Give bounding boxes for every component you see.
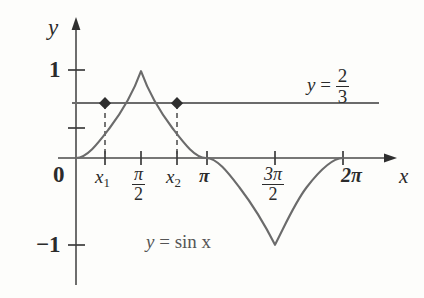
pi-over-2-fraction: π 2 bbox=[132, 165, 145, 203]
line-equation-equals: = bbox=[320, 74, 331, 95]
x1-subscript: 1 bbox=[103, 175, 109, 190]
curve-equation-equals: = bbox=[159, 231, 170, 252]
x-tick-label-3pi-over-2: 3π 2 bbox=[262, 165, 284, 203]
two-thirds-numerator: 2 bbox=[336, 66, 350, 86]
sine-graph-figure: y x 0 1 −1 x1 π 2 x2 π 3π 2 2π y = 2 3 bbox=[0, 0, 424, 298]
x-tick-label-pi: π bbox=[199, 166, 209, 185]
three-pi-over-2-numerator: 3π bbox=[262, 165, 284, 184]
x2-subscript: 2 bbox=[174, 175, 180, 190]
x-axis bbox=[58, 153, 397, 162]
two-thirds-fraction: 2 3 bbox=[336, 66, 350, 107]
y-tick-label-1: 1 bbox=[49, 58, 61, 81]
x-axis-label: x bbox=[399, 166, 408, 187]
dashed-droplines bbox=[105, 104, 177, 156]
graph-canvas bbox=[0, 0, 424, 298]
y-axis-label: y bbox=[48, 16, 58, 39]
three-pi-over-2-denominator: 2 bbox=[262, 184, 284, 204]
y-tick-label-minus-1: −1 bbox=[36, 233, 61, 256]
curve-equation-rhs: sin x bbox=[175, 231, 211, 252]
two-thirds-denominator: 3 bbox=[336, 86, 350, 107]
origin-label: 0 bbox=[53, 163, 65, 186]
pi-over-2-denominator: 2 bbox=[132, 184, 145, 204]
x-tick-label-x1: x1 bbox=[95, 167, 110, 190]
x-tick-label-x2: x2 bbox=[166, 167, 181, 190]
intersection-marker-x2 bbox=[171, 97, 183, 109]
intersection-marker-x1 bbox=[99, 97, 111, 109]
three-pi-over-2-fraction: 3π 2 bbox=[262, 165, 284, 203]
line-equation-lhs: y bbox=[307, 74, 315, 95]
x-tick-label-pi-over-2: π 2 bbox=[132, 165, 145, 203]
x-tick-label-2pi: 2π bbox=[341, 165, 362, 185]
curve-equation-lhs: y bbox=[146, 231, 154, 252]
curve-equation-label: y = sin x bbox=[146, 232, 211, 251]
line-equation-label: y = 2 3 bbox=[307, 66, 349, 107]
pi-over-2-numerator: π bbox=[132, 165, 145, 184]
